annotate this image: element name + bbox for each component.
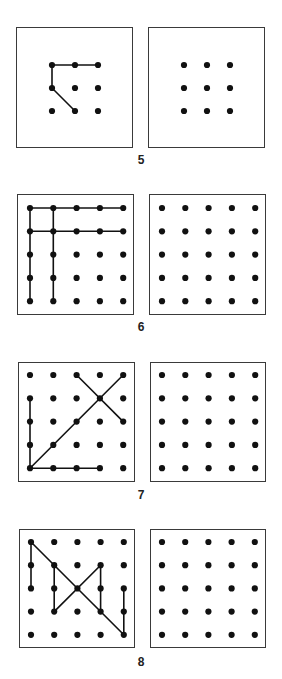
grid-dot[interactable]	[229, 609, 235, 615]
grid-dot	[120, 372, 126, 378]
grid-dot[interactable]	[181, 62, 187, 68]
grid-dot[interactable]	[206, 298, 212, 304]
grid-dot[interactable]	[182, 372, 188, 378]
grid-dot[interactable]	[182, 562, 188, 568]
grid-dot[interactable]	[252, 609, 258, 615]
panel-6-right-dot-grid	[150, 195, 267, 316]
grid-dot	[27, 228, 33, 234]
grid-dot[interactable]	[206, 442, 212, 448]
grid-dot[interactable]	[229, 419, 235, 425]
grid-dot[interactable]	[159, 585, 165, 591]
grid-dot[interactable]	[229, 228, 235, 234]
grid-dot[interactable]	[159, 298, 165, 304]
grid-dot[interactable]	[252, 562, 258, 568]
grid-dot[interactable]	[181, 85, 187, 91]
grid-dot[interactable]	[205, 609, 211, 615]
grid-dot[interactable]	[182, 442, 188, 448]
grid-dot[interactable]	[205, 539, 211, 545]
grid-dot[interactable]	[229, 275, 235, 281]
grid-dot[interactable]	[159, 372, 165, 378]
grid-dot	[27, 419, 33, 425]
grid-dot[interactable]	[182, 419, 188, 425]
grid-dot[interactable]	[204, 85, 210, 91]
grid-dot	[50, 205, 56, 211]
grid-dot[interactable]	[182, 395, 188, 401]
grid-dot[interactable]	[206, 205, 212, 211]
panel-6-right-board[interactable]	[149, 194, 266, 315]
grid-dot[interactable]	[159, 252, 165, 258]
grid-dot[interactable]	[252, 205, 258, 211]
grid-dot[interactable]	[206, 372, 212, 378]
grid-dot[interactable]	[252, 539, 258, 545]
grid-dot[interactable]	[159, 442, 165, 448]
grid-dot	[120, 395, 126, 401]
grid-dot[interactable]	[206, 465, 212, 471]
grid-dot[interactable]	[252, 228, 258, 234]
grid-dot[interactable]	[182, 275, 188, 281]
grid-dot[interactable]	[229, 465, 235, 471]
grid-dot[interactable]	[252, 372, 258, 378]
grid-dot[interactable]	[252, 298, 258, 304]
grid-dot[interactable]	[159, 395, 165, 401]
grid-dot[interactable]	[182, 205, 188, 211]
grid-dot[interactable]	[182, 609, 188, 615]
panel-5-right-board[interactable]	[148, 27, 265, 148]
grid-dot[interactable]	[227, 85, 233, 91]
grid-dot[interactable]	[252, 585, 258, 591]
grid-dot[interactable]	[159, 465, 165, 471]
grid-dot[interactable]	[204, 62, 210, 68]
grid-dot[interactable]	[229, 298, 235, 304]
grid-dot	[27, 205, 33, 211]
grid-dot[interactable]	[229, 372, 235, 378]
grid-dot[interactable]	[159, 562, 165, 568]
grid-dot[interactable]	[159, 419, 165, 425]
grid-dot[interactable]	[229, 585, 235, 591]
grid-dot[interactable]	[182, 465, 188, 471]
grid-dot[interactable]	[159, 632, 165, 638]
grid-dot[interactable]	[252, 419, 258, 425]
grid-dot[interactable]	[205, 632, 211, 638]
grid-dot[interactable]	[229, 395, 235, 401]
grid-dot[interactable]	[206, 419, 212, 425]
grid-dot[interactable]	[252, 442, 258, 448]
grid-dot[interactable]	[206, 275, 212, 281]
panel-5-left-board	[16, 27, 133, 148]
grid-dot[interactable]	[206, 228, 212, 234]
grid-dot[interactable]	[159, 228, 165, 234]
grid-dot[interactable]	[252, 395, 258, 401]
grid-dot[interactable]	[206, 395, 212, 401]
grid-dot[interactable]	[227, 108, 233, 114]
grid-dot	[95, 108, 101, 114]
grid-dot[interactable]	[229, 205, 235, 211]
grid-dot[interactable]	[159, 275, 165, 281]
grid-dot[interactable]	[182, 252, 188, 258]
grid-dot[interactable]	[252, 632, 258, 638]
panel-7-right-board[interactable]	[150, 362, 266, 482]
grid-dot[interactable]	[205, 562, 211, 568]
grid-dot[interactable]	[182, 228, 188, 234]
grid-dot	[74, 275, 80, 281]
grid-dot[interactable]	[182, 539, 188, 545]
grid-dot[interactable]	[182, 298, 188, 304]
grid-dot[interactable]	[229, 632, 235, 638]
grid-dot[interactable]	[229, 252, 235, 258]
grid-dot[interactable]	[181, 108, 187, 114]
grid-dot[interactable]	[182, 585, 188, 591]
grid-dot[interactable]	[159, 539, 165, 545]
panel-8-right-board[interactable]	[150, 529, 266, 648]
grid-dot[interactable]	[227, 62, 233, 68]
grid-dot[interactable]	[205, 585, 211, 591]
grid-dot[interactable]	[182, 632, 188, 638]
grid-dot[interactable]	[229, 442, 235, 448]
grid-dot	[50, 298, 56, 304]
grid-dot[interactable]	[229, 539, 235, 545]
grid-dot[interactable]	[206, 252, 212, 258]
grid-dot[interactable]	[252, 275, 258, 281]
grid-dot[interactable]	[229, 562, 235, 568]
grid-dot[interactable]	[204, 108, 210, 114]
grid-dot[interactable]	[252, 465, 258, 471]
grid-dot	[50, 465, 56, 471]
grid-dot[interactable]	[159, 205, 165, 211]
grid-dot[interactable]	[159, 609, 165, 615]
grid-dot[interactable]	[252, 252, 258, 258]
